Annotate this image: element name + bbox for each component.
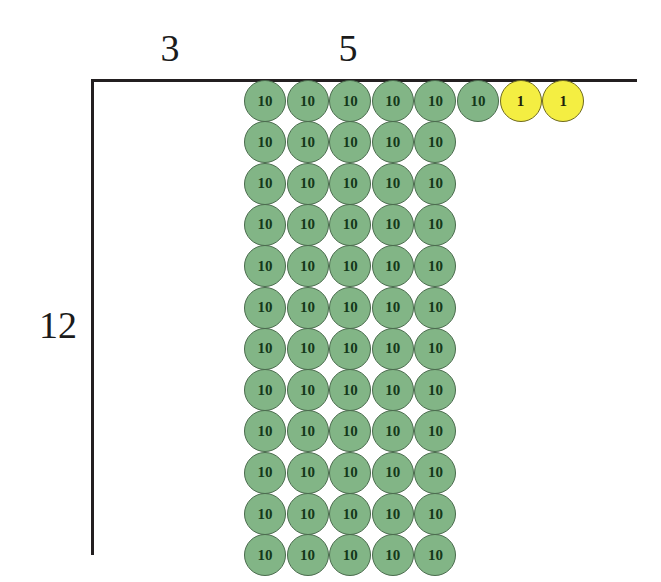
counter-ten[interactable]: 10 (329, 287, 371, 329)
counter-ten[interactable]: 10 (244, 204, 286, 246)
counter-ten[interactable]: 10 (244, 163, 286, 205)
counter-ten[interactable]: 10 (287, 245, 329, 287)
counter-value: 1 (517, 93, 525, 108)
counter-value: 10 (385, 465, 400, 480)
counter-ten[interactable]: 10 (414, 493, 456, 535)
counter-value: 10 (258, 547, 273, 562)
counter-value: 10 (471, 93, 486, 108)
counter-ten[interactable]: 10 (372, 245, 414, 287)
counter-one[interactable]: 1 (542, 80, 584, 122)
counter-value: 10 (300, 176, 315, 191)
counter-value: 10 (428, 465, 443, 480)
counter-value: 10 (300, 217, 315, 232)
counter-ten[interactable]: 10 (372, 493, 414, 535)
counter-ten[interactable]: 10 (414, 245, 456, 287)
counter-value: 10 (343, 258, 358, 273)
counter-ten[interactable]: 10 (244, 493, 286, 535)
counter-ten[interactable]: 10 (414, 204, 456, 246)
counter-ten[interactable]: 10 (287, 328, 329, 370)
counter-ten[interactable]: 10 (414, 80, 456, 122)
counter-ten[interactable]: 10 (287, 493, 329, 535)
counter-ten[interactable]: 10 (287, 80, 329, 122)
counter-value: 10 (343, 382, 358, 397)
counter-ten[interactable]: 10 (372, 534, 414, 576)
counter-value: 10 (258, 300, 273, 315)
counter-ten[interactable]: 10 (244, 121, 286, 163)
counter-ten[interactable]: 10 (287, 369, 329, 411)
counter-ten[interactable]: 10 (372, 452, 414, 494)
counter-ten[interactable]: 10 (329, 121, 371, 163)
counter-value: 10 (258, 465, 273, 480)
counter-ten[interactable]: 10 (329, 410, 371, 452)
counter-ten[interactable]: 10 (329, 369, 371, 411)
counter-value: 10 (300, 134, 315, 149)
counter-value: 10 (343, 217, 358, 232)
counter-ten[interactable]: 10 (372, 328, 414, 370)
counter-value: 10 (385, 506, 400, 521)
counter-value: 10 (343, 134, 358, 149)
counter-ten[interactable]: 10 (414, 328, 456, 370)
counter-ten[interactable]: 10 (287, 534, 329, 576)
counter-value: 10 (428, 176, 443, 191)
counter-ten[interactable]: 10 (414, 369, 456, 411)
figure-canvas: 3 5 12 101010101010111010101010101010101… (0, 0, 661, 582)
counter-ten[interactable]: 10 (372, 410, 414, 452)
counter-ten[interactable]: 10 (244, 534, 286, 576)
counter-ten[interactable]: 10 (329, 452, 371, 494)
counter-ten[interactable]: 10 (414, 452, 456, 494)
counter-ten[interactable]: 10 (372, 80, 414, 122)
counter-ten[interactable]: 10 (372, 121, 414, 163)
counter-ten[interactable]: 10 (372, 287, 414, 329)
counter-value: 10 (300, 341, 315, 356)
counter-value: 10 (300, 547, 315, 562)
counter-ten[interactable]: 10 (414, 121, 456, 163)
counter-value: 10 (258, 506, 273, 521)
counter-ten[interactable]: 10 (414, 287, 456, 329)
counter-value: 10 (343, 341, 358, 356)
counter-value: 10 (258, 423, 273, 438)
counter-value: 10 (343, 547, 358, 562)
counter-value: 10 (258, 217, 273, 232)
counter-ten[interactable]: 10 (372, 204, 414, 246)
counter-value: 10 (385, 341, 400, 356)
counter-ten[interactable]: 10 (414, 534, 456, 576)
counter-ten[interactable]: 10 (329, 328, 371, 370)
counter-value: 10 (300, 423, 315, 438)
counter-value: 10 (428, 217, 443, 232)
counter-ten[interactable]: 10 (457, 80, 499, 122)
counter-ten[interactable]: 10 (244, 410, 286, 452)
counter-ten[interactable]: 10 (329, 163, 371, 205)
counter-one[interactable]: 1 (500, 80, 542, 122)
counter-ten[interactable]: 10 (329, 204, 371, 246)
counter-ten[interactable]: 10 (329, 534, 371, 576)
counter-value: 10 (300, 506, 315, 521)
counter-ten[interactable]: 10 (287, 121, 329, 163)
counter-ten[interactable]: 10 (244, 328, 286, 370)
counter-value: 10 (428, 341, 443, 356)
counter-value: 10 (343, 423, 358, 438)
counter-value: 10 (300, 93, 315, 108)
counter-ten[interactable]: 10 (372, 369, 414, 411)
counter-ten[interactable]: 10 (329, 493, 371, 535)
counter-ten[interactable]: 10 (287, 204, 329, 246)
counter-ten[interactable]: 10 (287, 452, 329, 494)
counter-ten[interactable]: 10 (244, 80, 286, 122)
counter-ten[interactable]: 10 (329, 245, 371, 287)
counter-value: 10 (428, 134, 443, 149)
counter-ten[interactable]: 10 (372, 163, 414, 205)
counter-ten[interactable]: 10 (244, 369, 286, 411)
dimension-label-12: 12 (18, 306, 98, 344)
counter-value: 10 (300, 382, 315, 397)
counter-ten[interactable]: 10 (414, 410, 456, 452)
dimension-label-3: 3 (130, 29, 210, 67)
counter-ten[interactable]: 10 (329, 80, 371, 122)
counter-value: 10 (300, 300, 315, 315)
counter-ten[interactable]: 10 (244, 452, 286, 494)
counter-ten[interactable]: 10 (244, 287, 286, 329)
counter-ten[interactable]: 10 (414, 163, 456, 205)
counter-ten[interactable]: 10 (287, 410, 329, 452)
counter-ten[interactable]: 10 (287, 287, 329, 329)
counter-value: 10 (258, 258, 273, 273)
counter-ten[interactable]: 10 (287, 163, 329, 205)
counter-ten[interactable]: 10 (244, 245, 286, 287)
